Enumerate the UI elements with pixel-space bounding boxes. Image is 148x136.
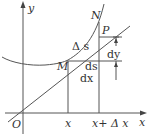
delta-s-label: Δ s <box>72 40 89 53</box>
point-n-label: N <box>90 9 101 22</box>
x-axis <box>5 111 147 116</box>
x-plus-delta-x-tick-label: x+ Δ x <box>92 117 129 130</box>
tangent-line <box>8 26 130 122</box>
origin-label: O <box>12 118 21 131</box>
dy-arrow-bottom-icon <box>114 61 118 80</box>
x-axis-arrow-icon <box>140 111 147 116</box>
point-p-label: P <box>101 24 110 37</box>
x-tick-label: x <box>65 117 72 130</box>
arc-length-diagram: y x O M P N Δ s ds dy dx x x+ Δ x <box>0 0 148 136</box>
y-axis <box>21 1 26 134</box>
x-axis-label: x <box>139 116 146 129</box>
dx-label: dx <box>80 72 94 85</box>
curve <box>2 4 104 65</box>
y-axis-label: y <box>27 2 35 15</box>
point-m-label: M <box>56 60 69 73</box>
dy-label: dy <box>107 48 121 61</box>
y-axis-arrow-icon <box>21 1 26 8</box>
